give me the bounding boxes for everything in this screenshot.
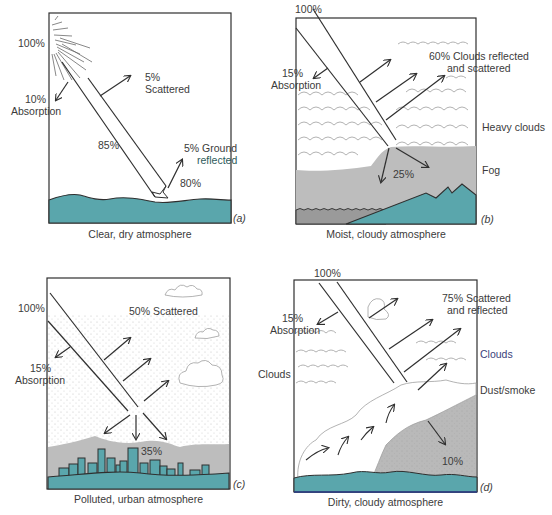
label-incoming: 100% — [295, 3, 322, 15]
label-absorption: Absorption — [15, 374, 65, 386]
label-absorption-pct: 15% — [282, 67, 303, 79]
label-fog: Fog — [482, 164, 500, 176]
panel-b-moist-cloudy: 100% 15% Absorption 60% Clouds reflected… — [276, 0, 552, 250]
panel-tag: (a) — [233, 212, 246, 224]
label-absorption-pct: 15% — [30, 362, 51, 374]
label-transmitted: 35% — [141, 445, 162, 457]
panel-tag: (d) — [480, 481, 493, 493]
label-absorption-pct: 15% — [282, 312, 303, 324]
label-ground-reflected-2: reflected — [197, 154, 237, 166]
label-scattered-2: and reflected — [447, 304, 508, 316]
panel-a-clear-dry: 100% 5% Scattered 10% Absorption 85% 5% … — [0, 0, 276, 250]
panel-caption: Dirty, cloudy atmosphere — [294, 496, 477, 508]
panel-tag: (b) — [481, 213, 494, 225]
label-transmitted: 85% — [98, 139, 119, 151]
label-scattered-pct: 5% — [145, 71, 160, 83]
label-absorption: Absorption — [270, 324, 320, 336]
label-ground-reflected-1: 5% Ground — [184, 142, 237, 154]
label-incoming: 100% — [18, 37, 45, 49]
panel-d-dirty-cloudy: 100% 15% Absorption 75% Scattered and re… — [276, 255, 552, 515]
panel-caption: Moist, cloudy atmosphere — [296, 228, 476, 240]
label-absorption: Absorption — [11, 105, 61, 117]
panel-caption: Clear, dry atmosphere — [49, 228, 231, 240]
label-transmitted: 10% — [442, 455, 463, 467]
label-clouds-left: Clouds — [258, 368, 291, 380]
label-absorption: Absorption — [271, 79, 321, 91]
label-incoming: 100% — [314, 267, 341, 279]
panel-tag: (c) — [233, 478, 245, 490]
ground — [48, 472, 229, 489]
panel-caption: Polluted, urban atmosphere — [47, 493, 230, 505]
label-absorbed-ground: 80% — [180, 177, 201, 189]
label-absorption-pct: 10% — [25, 93, 46, 105]
label-transmitted: 25% — [393, 168, 414, 180]
label-incoming: 100% — [18, 302, 45, 314]
label-scattered-1: 75% Scattered — [442, 292, 511, 304]
label-scattered: 50% Scattered — [129, 305, 198, 317]
label-dust-smoke: Dust/smoke — [480, 384, 535, 396]
label-heavy-clouds: Heavy clouds — [482, 121, 545, 133]
label-clouds-right: Clouds — [480, 348, 513, 360]
panel-c-polluted-urban: 100% 50% Scattered 15% Absorption 35% (c… — [0, 255, 276, 515]
label-scattered: Scattered — [145, 83, 190, 95]
label-reflected-1: 60% Clouds reflected — [429, 50, 529, 62]
label-reflected-2: and scattered — [447, 62, 511, 74]
